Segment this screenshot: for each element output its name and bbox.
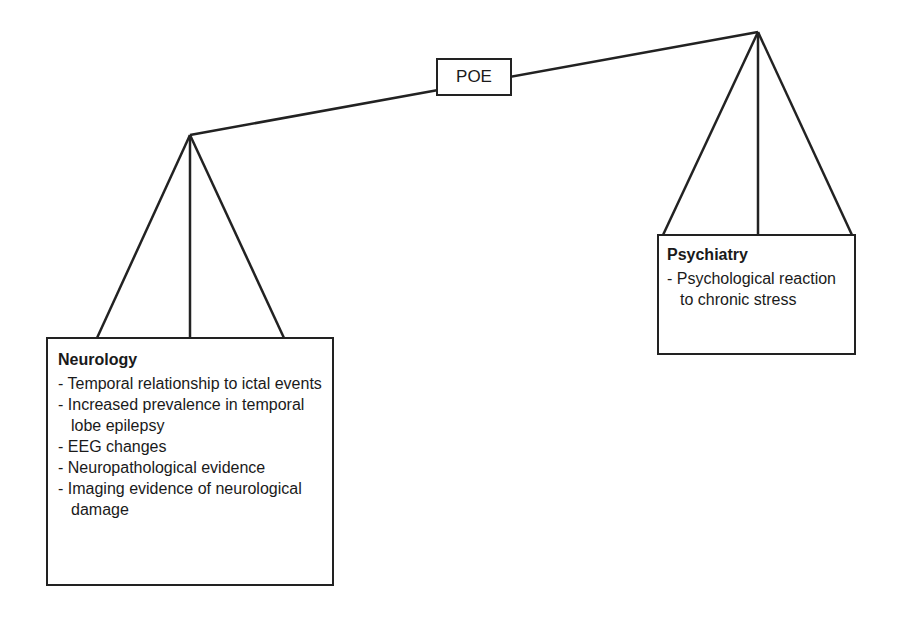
list-item: Increased prevalence in temporal lobe ep… bbox=[58, 394, 324, 436]
neurology-box: Neurology Temporal relationship to ictal… bbox=[46, 337, 334, 586]
left-pan-string-right bbox=[190, 135, 284, 338]
psychiatry-list: Psychological reaction to chronic stress bbox=[667, 268, 846, 310]
list-item: Imaging evidence of neurological damage bbox=[58, 478, 324, 520]
psychiatry-title: Psychiatry bbox=[667, 244, 846, 266]
psychiatry-box: Psychiatry Psychological reaction to chr… bbox=[657, 234, 856, 355]
right-pan-string-left bbox=[663, 32, 758, 235]
neurology-list: Temporal relationship to ictal events In… bbox=[58, 373, 324, 520]
left-pan-string-left bbox=[97, 135, 190, 338]
fulcrum-box: POE bbox=[436, 58, 512, 96]
list-item: EEG changes bbox=[58, 436, 324, 457]
fulcrum-label: POE bbox=[456, 67, 492, 87]
list-item: Psychological reaction to chronic stress bbox=[667, 268, 846, 310]
neurology-title: Neurology bbox=[58, 349, 324, 371]
list-item: Neuropathological evidence bbox=[58, 457, 324, 478]
list-item: Temporal relationship to ictal events bbox=[58, 373, 324, 394]
right-pan-string-right bbox=[758, 32, 852, 235]
